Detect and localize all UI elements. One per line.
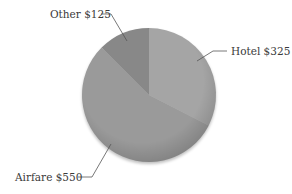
other-label: Other $125 xyxy=(50,8,111,20)
pie-shading xyxy=(82,28,216,162)
hotel-label: Hotel $325 xyxy=(231,45,290,57)
airfare-leader-line xyxy=(78,144,111,177)
pie-chart: Other $125 Hotel $325 Airfare $550 xyxy=(0,0,292,194)
airfare-label: Airfare $550 xyxy=(14,171,82,183)
